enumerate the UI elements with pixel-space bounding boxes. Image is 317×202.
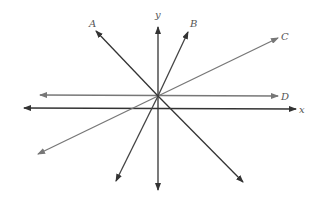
line-a bbox=[96, 31, 243, 182]
label-x: x bbox=[299, 104, 305, 115]
label-a: A bbox=[88, 18, 96, 29]
label-b: B bbox=[189, 18, 197, 29]
x-axis bbox=[24, 108, 296, 109]
label-y: y bbox=[154, 9, 161, 20]
label-c: C bbox=[281, 31, 289, 42]
lines-diagram: A B C D x y bbox=[0, 0, 317, 202]
label-d: D bbox=[280, 91, 289, 102]
line-b bbox=[116, 32, 188, 181]
